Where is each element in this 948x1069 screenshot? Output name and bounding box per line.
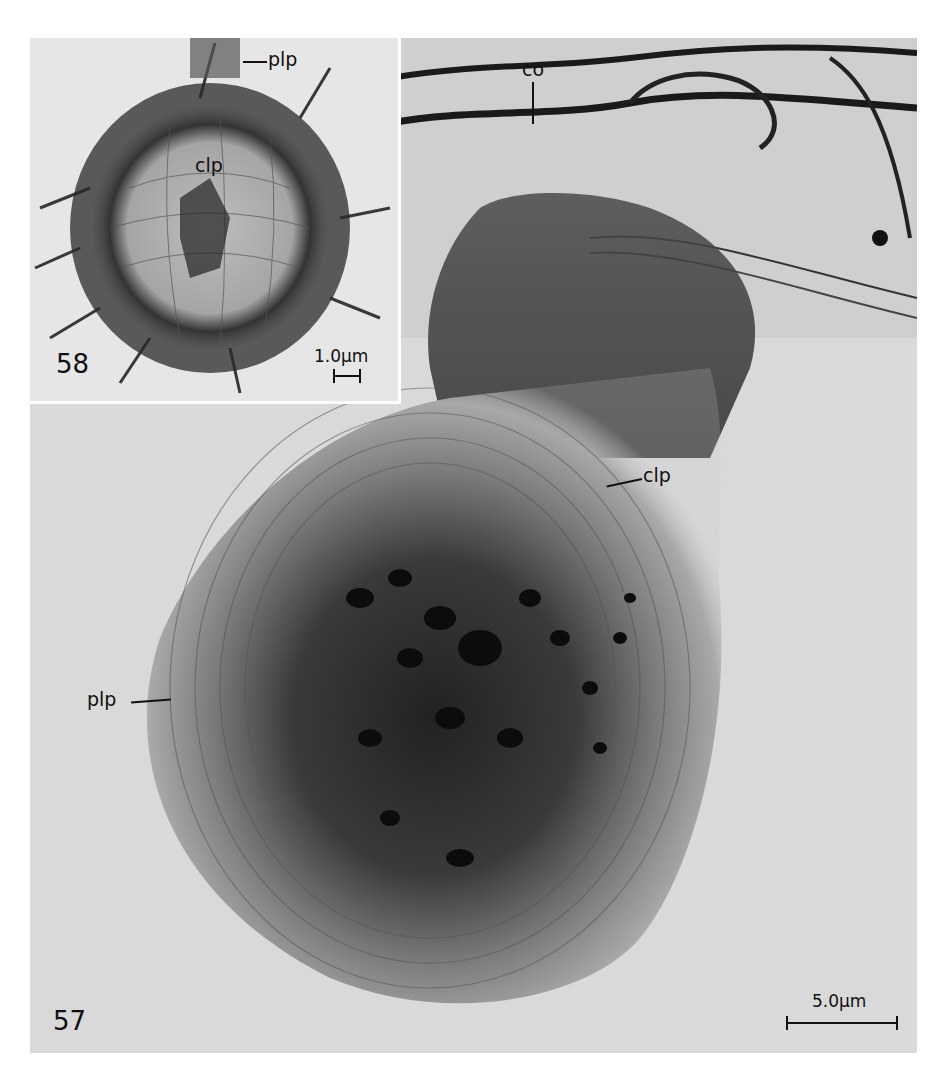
label-plp-58: plp (268, 50, 297, 69)
label-plp-57: plp (87, 690, 116, 709)
leader-line-co (532, 82, 534, 124)
label-co: co (522, 60, 544, 79)
label-clp-58: clp (195, 156, 223, 175)
panel-number-58: 58 (56, 351, 89, 377)
figure-plate: co clp plp 57 5.0µm (0, 0, 948, 1069)
panel-number-57: 57 (53, 1008, 86, 1034)
leader-line-plp-58 (243, 61, 267, 63)
label-clp-57: clp (643, 466, 671, 485)
scale-bar-label-58: 1.0µm (314, 348, 368, 365)
scale-bar-57 (786, 1022, 898, 1024)
scale-bar-label-57: 5.0µm (812, 993, 866, 1010)
scale-bar-58 (333, 375, 361, 377)
